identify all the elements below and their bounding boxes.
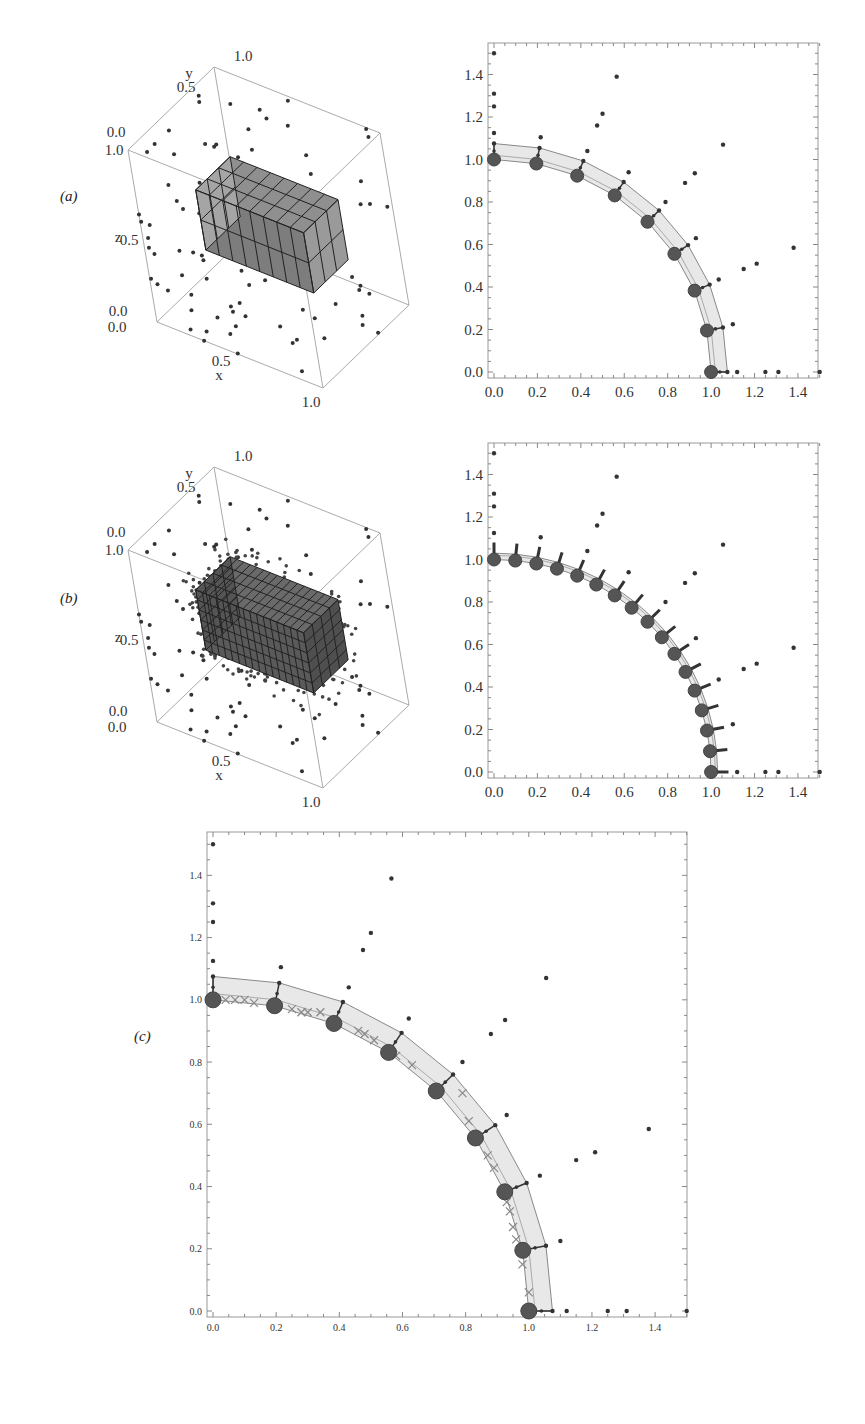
scatter-point <box>197 94 201 98</box>
scatter-point <box>203 142 207 146</box>
band-node <box>721 325 725 329</box>
band-node <box>686 243 690 247</box>
scatter-point <box>211 959 215 963</box>
scatter-point <box>211 901 215 905</box>
scatter-point <box>350 675 354 679</box>
scatter-point <box>721 142 725 146</box>
scatter-point <box>817 370 821 374</box>
scatter-point <box>229 305 233 309</box>
band-node <box>621 180 625 184</box>
scatter-point <box>167 528 171 532</box>
bounding-box-edge <box>323 705 409 788</box>
scatter-point <box>166 583 170 587</box>
z-tick-label: 0.5 <box>120 232 139 248</box>
y-tick-label: 0.2 <box>464 322 483 338</box>
scatter-point <box>139 620 143 624</box>
dense-point <box>353 652 357 656</box>
y-tick-label: 0.0 <box>464 764 483 780</box>
scatter-point <box>247 683 251 687</box>
scatter-point <box>735 370 739 374</box>
plot3d-b: 0.00.51.0x0.00.51.0y1.00.50.0z <box>100 430 440 810</box>
dense-point <box>237 667 241 671</box>
bounding-box-edge <box>157 322 323 388</box>
scatter-point <box>246 127 250 131</box>
scatter-point <box>763 370 767 374</box>
band-node <box>399 1031 403 1035</box>
scatter-point <box>538 135 542 139</box>
boundary-node <box>695 704 708 717</box>
band-node <box>536 153 540 157</box>
scatter-point <box>236 752 240 756</box>
scatter-point <box>376 331 380 335</box>
scatter-point <box>754 261 758 265</box>
plot2d-b: 0.00.20.40.60.81.01.21.40.00.20.40.60.81… <box>450 430 850 810</box>
y-tick-label: 0.0 <box>464 364 483 380</box>
scatter-point <box>234 724 238 728</box>
scatter-point <box>258 108 262 112</box>
scatter-point <box>694 636 698 640</box>
scatter-point <box>763 770 767 774</box>
scatter-point <box>492 91 496 95</box>
dense-point <box>188 603 192 607</box>
dense-point <box>350 632 354 636</box>
z-tick-label: 0.0 <box>109 703 128 719</box>
scatter-point <box>735 770 739 774</box>
scatter-point <box>202 339 206 343</box>
y-tick-label: 0.8 <box>464 194 483 210</box>
scatter-point <box>264 116 268 120</box>
scatter-point <box>359 202 363 206</box>
scatter-point <box>322 336 326 340</box>
scatter-point <box>347 985 351 989</box>
x-tick-label: 1.2 <box>745 784 764 800</box>
scatter-point <box>139 220 143 224</box>
dense-point <box>192 578 196 582</box>
scatter-point <box>238 301 242 305</box>
x-tick-label: 0.0 <box>108 319 127 335</box>
x-tick-label: 0.4 <box>333 1322 346 1333</box>
x-tick-label: 1.4 <box>649 1322 662 1333</box>
dense-point <box>243 554 247 558</box>
band-node <box>701 286 705 290</box>
dense-point <box>327 697 331 701</box>
y-tick-label: 1.2 <box>190 932 203 943</box>
dense-point <box>255 556 259 560</box>
dense-point <box>253 675 257 679</box>
y-tick-label: 0.2 <box>464 722 483 738</box>
scatter-point <box>205 330 209 334</box>
scatter-point <box>201 658 205 662</box>
dense-point <box>226 552 230 556</box>
scatter-point <box>200 254 204 258</box>
scatter-point <box>595 523 599 527</box>
scatter-point <box>231 710 235 714</box>
scatter-point <box>357 288 361 292</box>
scatter-point <box>286 99 290 103</box>
scatter-point <box>334 302 338 306</box>
scatter-point <box>460 1060 464 1064</box>
scatter-point <box>538 1173 542 1177</box>
scatter-point <box>191 651 195 655</box>
dense-point <box>249 674 253 678</box>
y-tick-label: 0.5 <box>177 79 196 95</box>
band-node <box>707 282 711 286</box>
y-tick-label: 0.4 <box>464 679 483 695</box>
scatter-point <box>278 325 282 329</box>
scatter-point <box>538 535 542 539</box>
band-region <box>494 144 727 372</box>
scatter-point <box>236 352 240 356</box>
panel-label-b: (b) <box>60 590 78 607</box>
dense-point <box>282 688 286 692</box>
boundary-node <box>571 169 584 182</box>
bounding-box-edge <box>128 67 214 150</box>
x-tick-label: 0.6 <box>396 1322 409 1333</box>
dense-point <box>343 668 347 672</box>
x-tick-label: 1.0 <box>302 794 321 810</box>
dense-point <box>192 592 196 596</box>
scatter-point <box>309 572 313 576</box>
z-tick-label: 1.0 <box>105 142 124 158</box>
dense-point <box>250 554 254 558</box>
bounding-box-edge <box>157 722 323 788</box>
x-tick-label: 0.2 <box>528 384 547 400</box>
scatter-point <box>177 249 181 253</box>
band-node <box>492 141 496 145</box>
dense-point <box>354 627 358 631</box>
